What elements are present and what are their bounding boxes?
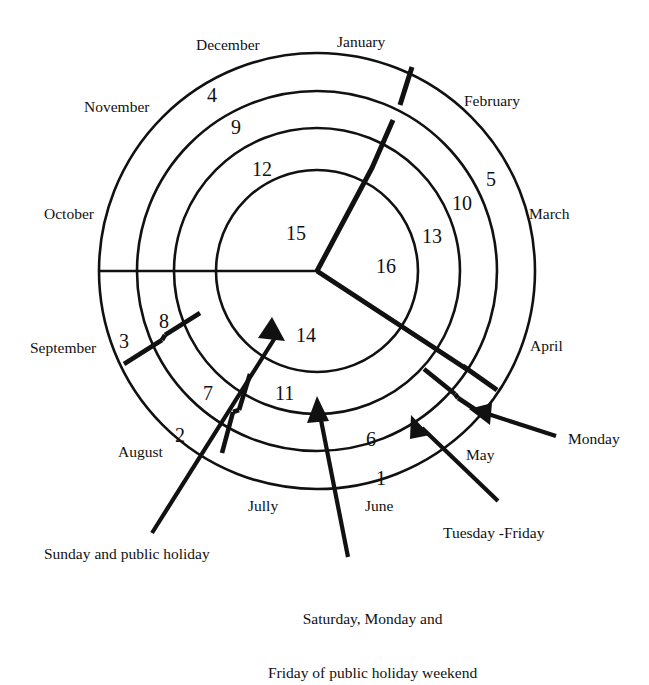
month-label-december: December [196,36,260,54]
callout-label-saturday-line1: Saturday, Monday and [268,610,477,628]
sector-number-11: 11 [275,382,294,406]
sector-number-2: 2 [175,424,185,448]
radial-divider-northeast [317,120,393,271]
month-label-september: September [30,339,96,357]
leader-line-saturday [320,415,348,557]
leader-line-monday [488,414,556,436]
callout-label-sunday: Sunday and public holiday [44,545,210,563]
month-label-november: November [84,98,149,116]
callout-label-monday: Monday [568,430,620,448]
tick-joiner-southeast-a [455,394,458,398]
tick-joiner-southwest-a [162,335,165,340]
sector-number-10: 10 [452,192,472,216]
sector-number-14: 14 [296,324,316,348]
month-label-august: August [118,443,163,461]
month-label-january: January [337,33,385,51]
month-label-october: October [44,205,94,223]
month-label-june: June [365,497,393,515]
month-label-may: May [466,446,494,464]
month-label-february: February [464,92,520,110]
arrowhead-saturday [307,396,329,423]
radial-divider-southeast-outer-tick [463,366,497,390]
callout-label-saturday-line2: Friday of public holiday weekend [268,664,477,682]
callout-label-saturday: Saturday, Monday and Friday of public ho… [268,573,477,685]
callout-label-tuesday-friday: Tuesday -Friday [443,524,544,542]
month-label-april: April [530,337,563,355]
sector-number-8: 8 [159,310,169,334]
sector-number-9: 9 [231,116,241,140]
sector-number-5: 5 [486,168,496,192]
arrowhead-sunday [258,317,285,341]
leader-line-tuesday-friday [422,428,498,501]
sector-number-7: 7 [203,382,213,406]
sector-number-6: 6 [366,428,376,452]
sector-number-3: 3 [119,330,129,354]
sector-number-13: 13 [422,225,442,249]
sector-number-1: 1 [376,467,386,491]
month-label-july: Jully [248,497,278,515]
month-label-march: March [529,205,569,223]
sector-number-15: 15 [286,222,306,246]
tick-joiner-south-a [233,410,239,412]
radial-divider-southeast [317,271,468,370]
sector-number-4: 4 [207,84,217,108]
callout-leader-saturday [307,396,348,557]
tick-ring2-southeast [424,369,455,394]
sector-number-12: 12 [252,158,272,182]
sector-number-16: 16 [376,255,396,279]
callout-leader-monday [469,403,556,436]
